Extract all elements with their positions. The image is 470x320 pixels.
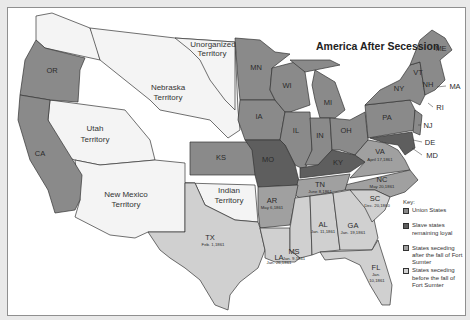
label-ga: GA <box>348 221 359 230</box>
label-wi: WI <box>282 81 291 90</box>
label-nebraska-territory: Nebraska <box>151 83 186 92</box>
label-md: MD <box>426 151 438 160</box>
swatch-seceding-before-icon <box>403 268 409 274</box>
swatch-union-icon <box>403 208 409 214</box>
label-ar: AR <box>267 196 278 205</box>
swatch-seceding-after-icon <box>403 245 409 251</box>
label-ks: KS <box>216 153 226 162</box>
date-tn: June 8,1861 <box>308 189 332 194</box>
label-mo: MO <box>262 155 274 164</box>
state-new-jersey <box>413 110 422 135</box>
label-mn: MN <box>250 63 262 72</box>
label-unorganized-territory: Unorganized <box>190 40 235 49</box>
label-utah-territory: Utah <box>87 124 104 133</box>
label-ma: MA <box>449 82 460 91</box>
key-item-slave-loyal: Slave states remaining loyal <box>403 222 463 236</box>
label-va: VA <box>375 147 384 156</box>
label-indian-territory: Indian <box>218 186 240 195</box>
label-oh: OH <box>340 126 351 135</box>
map-title: America After Secession <box>316 40 439 52</box>
key-label-union: Union States <box>412 207 446 214</box>
key-label-slave-loyal: Slave states remaining loyal <box>412 222 463 236</box>
date-tx: Feb. 1,1861 <box>202 242 226 247</box>
label-nj: NJ <box>423 121 432 130</box>
label-ny: NY <box>394 84 404 93</box>
label-new-mexico-territory-sub: Territory <box>112 200 141 209</box>
key-label-seceding-before: States seceding before the fall of Fort … <box>412 267 463 289</box>
label-al: AL <box>318 220 327 229</box>
label-tn: TN <box>315 180 325 189</box>
date-fl-line1: Jan. <box>372 272 380 277</box>
swatch-slave-loyal-icon <box>403 223 409 229</box>
label-vt: VT <box>413 68 423 77</box>
label-ri: RI <box>436 103 444 112</box>
map-key: Key: Union States Slave states remaining… <box>403 199 463 297</box>
label-ia: IA <box>255 112 262 121</box>
label-unorganized-territory-sub: Territory <box>198 49 227 58</box>
key-title: Key: <box>403 199 463 206</box>
label-de: DE <box>425 138 435 147</box>
label-ky: KY <box>333 158 343 167</box>
label-indian-territory-sub: Territory <box>215 196 244 205</box>
date-va: April 17,1861 <box>367 157 393 162</box>
date-la: Jan. 26,1861 <box>267 260 292 265</box>
date-fl-line2: 10,1861 <box>369 278 385 283</box>
date-ar: May 6,1861 <box>261 205 284 210</box>
label-in: IN <box>316 131 324 140</box>
key-item-seceding-before: States seceding before the fall of Fort … <box>403 267 463 289</box>
label-pa: PA <box>382 113 391 122</box>
label-nh: NH <box>423 80 434 89</box>
date-al: Jan. 11,1861 <box>311 229 336 234</box>
label-nc: NC <box>377 175 388 184</box>
label-fl: FL <box>372 263 381 272</box>
date-sc: Dec. 20,1860 <box>364 203 390 208</box>
label-tx: TX <box>205 233 215 242</box>
date-ga: Jan. 19,1861 <box>341 230 366 235</box>
label-new-mexico-territory: New Mexico <box>104 190 148 199</box>
key-item-union: Union States <box>403 207 463 214</box>
label-sc: SC <box>370 194 381 203</box>
label-utah-territory-sub: Territory <box>81 135 110 144</box>
date-nc: May 20,1861 <box>370 184 395 189</box>
label-ca: CA <box>35 149 45 158</box>
new-mexico-territory <box>75 160 185 238</box>
key-label-seceding-after: States seceding after the fall of Fort S… <box>412 245 463 267</box>
label-nebraska-territory-sub: Territory <box>154 93 183 102</box>
label-il: IL <box>293 126 299 135</box>
label-or: OR <box>46 66 58 75</box>
key-item-seceding-after: States seceding after the fall of Fort S… <box>403 245 463 267</box>
label-mi: MI <box>324 98 332 107</box>
label-ms: MS <box>288 247 299 256</box>
